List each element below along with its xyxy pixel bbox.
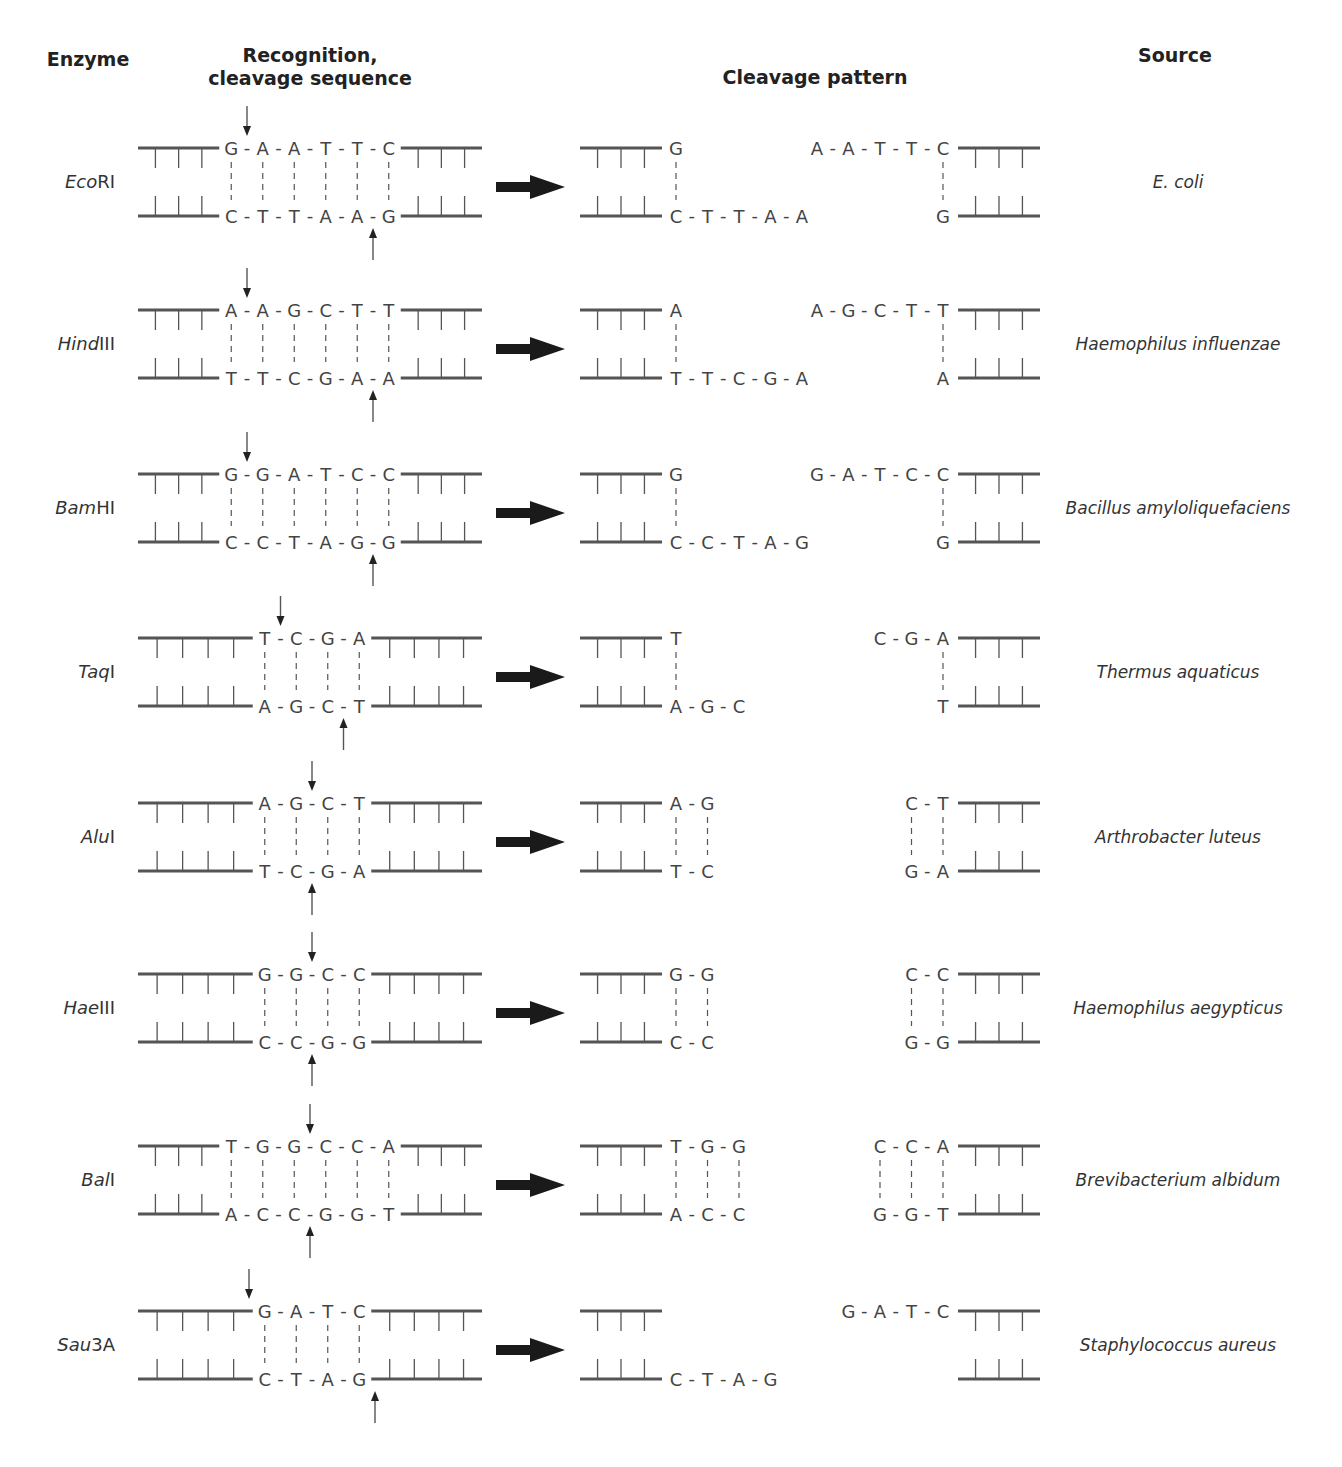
base-letter: C [937,138,950,159]
base-letter: C [290,861,303,882]
base-letter: T [321,1301,334,1322]
base-letter: C [701,1032,714,1053]
bond-dash: - [861,137,868,158]
base-letter: G [936,206,950,227]
bond-dash: - [340,627,347,648]
source-organism: Thermus aquaticus [1097,662,1260,682]
bond-dash: - [309,627,316,648]
bond-dash: - [689,1368,696,1389]
bond-dash: - [309,860,316,881]
cut-arrow-up-icon [306,1226,314,1236]
cut-arrow-down-icon [277,616,285,626]
base-letter: C [319,1136,332,1157]
base-letter: T [290,1369,303,1390]
enzyme-row-haeiii: HaeIIIGC--GC--CG--CGC-CG-GC-CG-GHaemophi… [63,932,1282,1086]
source-organism: Haemophilus influenzae [1076,334,1281,354]
cut-arrow-up-icon [308,1054,316,1064]
bond-dash: - [893,1203,900,1224]
base-letter: T [288,206,301,227]
bond-dash: - [861,1300,868,1321]
base-letter: G [319,368,333,389]
cut-arrow-up-icon [369,228,377,238]
bond-dash: - [783,367,790,388]
cleavage-arrow-icon [496,665,565,689]
bond-dash: - [689,1031,696,1052]
base-letter: G [258,1301,272,1322]
base-letter: G [669,138,683,159]
base-letter: G [382,206,396,227]
base-letter: G [795,532,809,553]
bond-dash: - [307,531,314,552]
base-letter: G [319,1204,333,1225]
base-letter: T [937,696,950,717]
base-letter: T [258,628,271,649]
bond-dash: - [893,627,900,648]
base-letter: C [670,1032,683,1053]
base-letter: C [905,964,918,985]
bond-dash: - [689,367,696,388]
bond-dash: - [275,463,282,484]
bond-dash: - [307,205,314,226]
source-organism: E. coli [1153,172,1204,192]
base-letter: C [288,368,301,389]
base-letter: T [288,532,301,553]
base-letter: G [289,793,303,814]
base-letter: T [382,300,395,321]
cut-arrow-down-icon [308,952,316,962]
cut-arrow-down-icon [243,288,251,298]
base-letter: C [905,793,918,814]
base-letter: T [382,1204,395,1225]
base-letter: G [701,964,715,985]
enzyme-name: EcoRI [65,171,115,192]
source-organism: Arthrobacter luteus [1094,827,1261,847]
enzyme-row-alui: AluIAT--GC--CG--TAT-CA-GC-TG-AArthrobact… [80,761,1261,915]
base-letter: A [351,368,364,389]
base-letter: G [936,1032,950,1053]
base-letter: T [258,861,271,882]
bond-dash: - [277,1031,284,1052]
bond-dash: - [307,1135,314,1156]
bond-dash: - [689,860,696,881]
base-letter: C [225,532,238,553]
bond-dash: - [340,963,347,984]
bond-dash: - [244,1203,251,1224]
base-letter: T [937,300,950,321]
base-letter: A [937,368,950,389]
base-letter: C [288,1204,301,1225]
base-letter: T [670,368,683,389]
bond-dash: - [275,531,282,552]
source-organism: Haemophilus aegypticus [1073,998,1283,1018]
base-letter: T [319,464,332,485]
cleavage-arrow-icon [496,337,565,361]
bond-dash: - [720,1135,727,1156]
cut-arrow-up-icon [340,718,348,728]
enzyme-name: Sau3A [57,1334,115,1355]
base-letter: T [937,1204,950,1225]
bond-dash: - [752,205,759,226]
base-letter: G [669,964,683,985]
bond-dash: - [370,137,377,158]
base-letter: T [905,300,918,321]
bond-dash: - [924,1300,931,1321]
bond-dash: - [338,137,345,158]
bond-dash: - [924,1203,931,1224]
enzyme-row-hindiii: HindIIIAT--AT--GC--CG--TA--TAT-T-C-G-AAA… [58,268,1281,422]
bond-dash: - [924,463,931,484]
bond-dash: - [752,367,759,388]
base-letter: T [874,464,887,485]
bond-dash: - [720,531,727,552]
enzyme-row-bali: BalITA--GC--GC--CG--CG--ATA-C-CT-G-GC-C-… [81,1104,1280,1258]
bond-dash: - [689,205,696,226]
bond-dash: - [720,695,727,716]
base-letter: C [353,964,366,985]
enzyme-row-bamhi: BamHIGC--GC--AT--TA--CG--CGC-C-T-A-GGG-A… [55,432,1290,586]
base-letter: T [351,300,364,321]
cleavage-arrow-icon [496,830,565,854]
base-letter: T [351,138,364,159]
bond-dash: - [830,137,837,158]
base-letter: G [701,1136,715,1157]
base-letter: G [701,696,715,717]
base-letter: C [874,300,887,321]
base-letter: G [764,1369,778,1390]
cut-arrow-up-icon [371,1391,379,1401]
